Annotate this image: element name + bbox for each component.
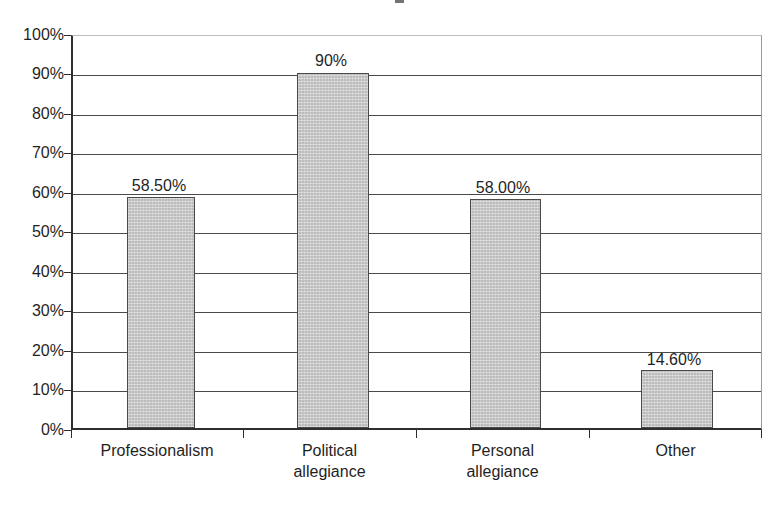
gridline-80 [73,115,761,116]
y-axis-label-60: 60% [4,185,64,201]
x-axis-label-line-1: Political [243,440,416,461]
y-axis-label-70: 70% [4,145,64,161]
bar-value-label-other: 14.60% [618,351,730,369]
x-axis-label-line-2: allegiance [243,461,416,482]
bar-value-label-personal-allegiance: 58.00% [447,179,559,197]
x-tick-mark-3 [589,430,590,438]
x-tick-mark-0 [71,430,72,438]
y-tick-mark-60 [64,193,71,194]
gridline-90 [73,75,761,76]
y-axis-label-80: 80% [4,106,64,122]
bar-value-label-professionalism: 58.50% [103,177,215,195]
x-axis-label-line-1: Professionalism [71,440,243,461]
x-axis-label-personal-allegiance: Personal allegiance [416,440,589,482]
y-axis-label-10: 10% [4,382,64,398]
gridline-70 [73,154,761,155]
x-tick-mark-4 [761,430,762,438]
y-tick-mark-10 [64,390,71,391]
x-tick-mark-2 [416,430,417,438]
y-axis-label-0: 0% [4,422,64,438]
bar-personal-allegiance [470,199,541,428]
y-tick-mark-20 [64,351,71,352]
x-axis-label-line-1: Other [589,440,762,461]
bar-chart: 100% 90% 80% 70% 60% 50% 40% 30% 20% 10%… [0,0,782,510]
y-tick-mark-40 [64,272,71,273]
x-axis-label-line-2: allegiance [416,461,589,482]
bar-professionalism [127,197,195,428]
y-tick-mark-50 [64,232,71,233]
y-tick-mark-80 [64,114,71,115]
y-tick-mark-70 [64,153,71,154]
y-axis-label-90: 90% [4,66,64,82]
y-tick-mark-0 [64,430,71,431]
y-tick-mark-100 [64,35,71,36]
y-axis-label-20: 20% [4,343,64,359]
y-axis-label-40: 40% [4,264,64,280]
bar-value-label-political-allegiance: 90% [275,52,387,70]
bar-political-allegiance [297,73,369,429]
x-axis-label-other: Other [589,440,762,461]
bar-other [641,370,713,428]
cropped-title-remnant [395,0,404,3]
x-tick-mark-1 [243,430,244,438]
y-tick-mark-30 [64,311,71,312]
x-axis-label-line-1: Personal [416,440,589,461]
x-axis-label-professionalism: Professionalism [71,440,243,461]
y-axis-label-50: 50% [4,224,64,240]
plot-area [71,35,762,430]
y-axis-label-100: 100% [4,27,64,43]
y-axis-label-30: 30% [4,303,64,319]
x-axis-label-political-allegiance: Political allegiance [243,440,416,482]
y-tick-mark-90 [64,74,71,75]
